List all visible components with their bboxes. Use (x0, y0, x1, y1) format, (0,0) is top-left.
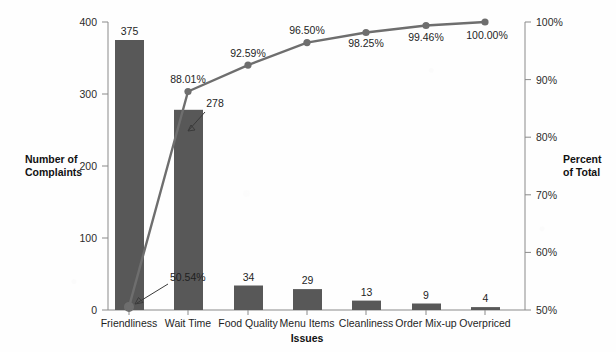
marker-food-quality (244, 62, 251, 69)
y2tick-label-70: 70% (536, 189, 557, 201)
marker-cleanliness (362, 29, 369, 36)
x-axis-title: Issues (291, 332, 324, 344)
y2tick-label-80: 80% (536, 131, 557, 143)
marker-overpriced (481, 18, 488, 25)
pct-label-menu-items: 96.50% (289, 24, 325, 36)
bar-order-mix-up (412, 304, 441, 311)
y-axis-title-line2: Complaints (25, 166, 82, 178)
xtick-label-order-mix-up: Order Mix-up (395, 317, 456, 329)
left-axis-ticks (102, 22, 108, 310)
xtick-label-food-quality: Food Quality (218, 317, 278, 329)
ytick-label-0: 0 (91, 304, 97, 316)
marker-order-mix-up (422, 22, 429, 29)
bar-overpriced (471, 307, 500, 310)
xtick-label-cleanliness: Cleanliness (339, 317, 393, 329)
bar-value-friendliness: 375 (121, 25, 139, 37)
bar-value-food-quality: 34 (243, 271, 255, 283)
marker-wait-time (184, 88, 191, 95)
bar-value-order-mix-up: 9 (423, 289, 429, 301)
pct-label-wait-time: 88.01% (170, 73, 206, 85)
y2-axis-title-line1: Percent (563, 153, 602, 165)
pct-label-order-mix-up: 99.46% (408, 31, 444, 43)
y2tick-label-90: 90% (536, 74, 557, 86)
pct-label-food-quality: 92.59% (230, 47, 266, 59)
right-axis-ticks (525, 22, 531, 310)
y2tick-label-50: 50% (536, 304, 557, 316)
xtick-label-friendliness: Friendliness (101, 317, 158, 329)
y2-axis-title-line2: of Total (563, 166, 600, 178)
bar-value-menu-items: 29 (302, 274, 314, 286)
marker-friendliness (125, 303, 133, 311)
xtick-label-menu-items: Menu Items (280, 317, 335, 329)
chart-canvas: 400 300 200 100 0 100% 90% 80% 70% 60% 5… (0, 0, 616, 352)
bar-value-wait-time: 278 (206, 97, 224, 109)
pct-label-overpriced: 100.00% (466, 29, 507, 41)
ytick-label-300: 300 (79, 88, 97, 100)
y2tick-label-100: 100% (536, 16, 563, 28)
ytick-label-400: 400 (79, 16, 97, 28)
y2tick-label-60: 60% (536, 246, 557, 258)
bar-cleanliness (352, 301, 381, 310)
bar-food-quality (234, 286, 263, 311)
pct-label-friendliness: 50.54% (170, 271, 206, 283)
x-axis-ticks (129, 310, 485, 315)
bar-menu-items (293, 289, 322, 310)
bar-value-overpriced: 4 (483, 292, 489, 304)
pct-label-cleanliness: 98.25% (348, 37, 384, 49)
xtick-label-overpriced: Overpriced (459, 317, 511, 329)
y-axis-title-line1: Number of (25, 153, 78, 165)
xtick-label-wait-time: Wait Time (165, 317, 211, 329)
bar-value-cleanliness: 13 (361, 286, 373, 298)
marker-menu-items (303, 39, 310, 46)
ytick-label-100: 100 (79, 232, 97, 244)
pareto-chart: 400 300 200 100 0 100% 90% 80% 70% 60% 5… (0, 0, 616, 352)
